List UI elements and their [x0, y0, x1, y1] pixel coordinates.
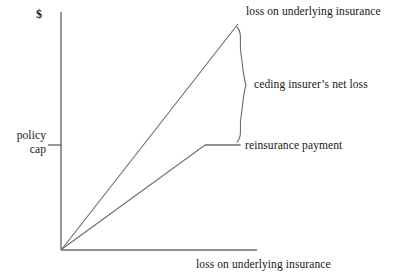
diagram-canvas — [0, 0, 405, 276]
net-loss-label: ceding insurer’s net loss — [254, 78, 368, 91]
loss-line — [62, 24, 238, 249]
x-axis-label: loss on underlying insurance — [196, 258, 331, 271]
net-loss-brace — [237, 27, 246, 142]
policy-cap-label: policy cap — [2, 128, 46, 156]
loss-line-label: loss on underlying insurance — [246, 5, 381, 18]
policy-cap-label-line1: policy — [2, 128, 46, 142]
policy-cap-label-line2: cap — [2, 142, 46, 156]
reinsurance-payment-line — [62, 145, 240, 249]
reinsurance-diagram: $ policy cap loss on underlying insuranc… — [0, 0, 405, 276]
y-axis-unit-label: $ — [36, 8, 42, 21]
reinsurance-payment-label: reinsurance payment — [245, 139, 342, 152]
